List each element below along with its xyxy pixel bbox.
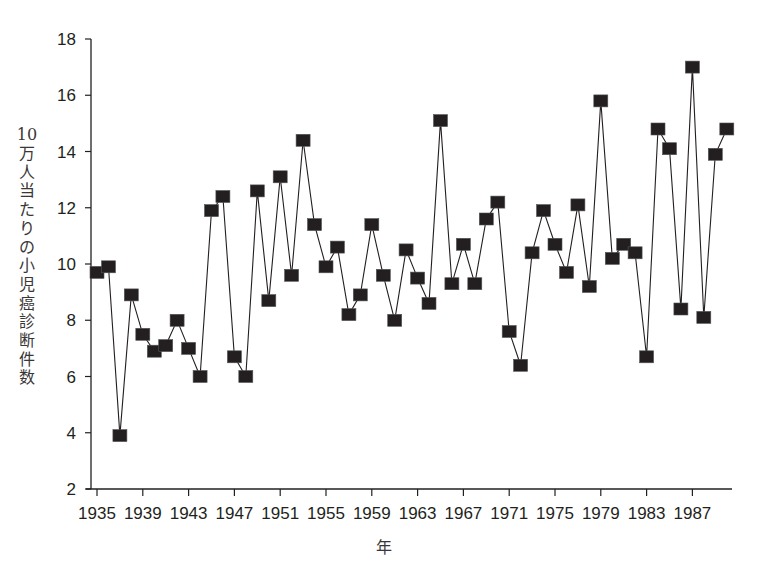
y-label-char: 万 xyxy=(19,144,35,163)
data-series xyxy=(90,61,734,442)
data-point-marker xyxy=(468,278,482,290)
y-tick-label: 14 xyxy=(57,143,76,162)
y-label-char: 数 xyxy=(19,368,35,387)
data-point-marker xyxy=(571,199,585,211)
data-point-marker xyxy=(170,314,184,326)
data-point-marker xyxy=(594,95,608,107)
y-label-char: 件 xyxy=(19,350,35,369)
y-tick-label: 6 xyxy=(67,368,76,387)
y-label-char: の xyxy=(19,238,35,257)
data-point-marker xyxy=(342,309,356,321)
line-chart: 24681012141618 1935193919431947195119551… xyxy=(0,0,770,577)
series-markers xyxy=(90,61,734,442)
y-label-char: り xyxy=(19,219,35,238)
y-label-char: 当 xyxy=(19,181,35,200)
data-point-marker xyxy=(193,371,207,383)
data-point-marker xyxy=(319,261,333,273)
y-label-char: た xyxy=(19,200,35,219)
data-point-marker xyxy=(674,303,688,315)
y-label-char: 小 xyxy=(19,256,35,275)
data-point-marker xyxy=(582,281,596,293)
x-tick-label: 1971 xyxy=(490,504,528,523)
y-tick-label: 16 xyxy=(57,86,76,105)
data-point-marker xyxy=(537,205,551,217)
x-tick-label: 1955 xyxy=(307,504,345,523)
data-point-marker xyxy=(651,123,665,135)
x-tick-label: 1975 xyxy=(536,504,574,523)
y-label-char: 10 xyxy=(17,125,37,144)
data-point-marker xyxy=(720,123,734,135)
data-point-marker xyxy=(445,278,459,290)
data-point-marker xyxy=(697,311,711,323)
data-point-marker xyxy=(514,359,528,371)
y-label-char: 人 xyxy=(19,163,35,182)
data-point-marker xyxy=(308,219,322,231)
data-point-marker xyxy=(205,205,219,217)
y-tick-label: 10 xyxy=(57,255,76,274)
x-tick-label: 1979 xyxy=(582,504,620,523)
data-point-marker xyxy=(365,219,379,231)
data-point-marker xyxy=(502,326,516,338)
x-tick-label: 1987 xyxy=(673,504,711,523)
x-tick-label: 1943 xyxy=(170,504,208,523)
x-tick-label: 1963 xyxy=(399,504,437,523)
data-point-marker xyxy=(388,314,402,326)
data-point-marker xyxy=(330,241,344,253)
data-point-marker xyxy=(113,430,127,442)
y-label-char: 診 xyxy=(19,312,35,331)
data-point-marker xyxy=(548,238,562,250)
data-point-marker xyxy=(216,191,230,203)
data-point-marker xyxy=(239,371,253,383)
data-point-marker xyxy=(136,328,150,340)
data-point-marker xyxy=(663,143,677,155)
data-point-marker xyxy=(124,289,138,301)
data-point-marker xyxy=(285,269,299,281)
x-tick-label: 1951 xyxy=(261,504,299,523)
y-axis-label: 10万人当たりの小児癌診断件数 xyxy=(17,125,37,387)
data-point-marker xyxy=(605,252,619,264)
data-point-marker xyxy=(708,148,722,160)
y-axis-ticks: 24681012141618 xyxy=(57,30,91,499)
data-point-marker xyxy=(525,247,539,259)
data-point-marker xyxy=(422,297,436,309)
data-point-marker xyxy=(262,295,276,307)
data-point-marker xyxy=(434,115,448,127)
y-label-char: 断 xyxy=(19,331,35,350)
data-point-marker xyxy=(411,272,425,284)
x-tick-label: 1947 xyxy=(215,504,253,523)
data-point-marker xyxy=(491,196,505,208)
data-point-marker xyxy=(456,238,470,250)
data-point-marker xyxy=(628,247,642,259)
y-label-char: 児 xyxy=(19,275,35,294)
y-label-char: 癌 xyxy=(19,294,35,313)
x-tick-label: 1935 xyxy=(78,504,116,523)
x-axis-ticks: 1935193919431947195119551959196319671971… xyxy=(78,489,711,523)
data-point-marker xyxy=(182,342,196,354)
data-point-marker xyxy=(296,134,310,146)
data-point-marker xyxy=(227,351,241,363)
data-point-marker xyxy=(273,171,287,183)
x-tick-label: 1959 xyxy=(353,504,391,523)
data-point-marker xyxy=(685,61,699,73)
x-tick-label: 1939 xyxy=(124,504,162,523)
y-tick-label: 4 xyxy=(67,424,76,443)
y-tick-label: 12 xyxy=(57,199,76,218)
y-tick-label: 18 xyxy=(57,30,76,49)
data-point-marker xyxy=(376,269,390,281)
data-point-marker xyxy=(399,244,413,256)
x-tick-label: 1967 xyxy=(444,504,482,523)
data-point-marker xyxy=(479,213,493,225)
data-point-marker xyxy=(159,340,173,352)
data-point-marker xyxy=(640,351,654,363)
data-point-marker xyxy=(102,261,116,273)
chart-axes xyxy=(86,39,732,489)
y-tick-label: 8 xyxy=(67,311,76,330)
y-tick-label: 2 xyxy=(67,480,76,499)
data-point-marker xyxy=(250,185,264,197)
data-point-marker xyxy=(353,289,367,301)
x-tick-label: 1983 xyxy=(628,504,666,523)
x-axis-label: 年 xyxy=(376,538,392,557)
data-point-marker xyxy=(560,266,574,278)
